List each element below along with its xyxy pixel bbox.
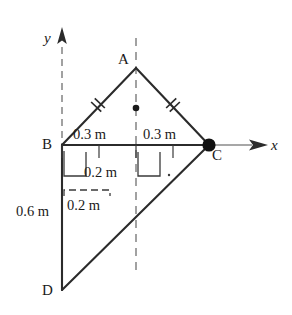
y-axis-label: y — [44, 31, 51, 46]
x-axis-label: x — [271, 138, 278, 153]
dim-bracket-0p2-upper-right — [138, 152, 160, 176]
dimension-label-0p2-lower: 0.2 m — [67, 198, 100, 213]
dimension-label-0p3-left: 0.3 m — [73, 127, 106, 142]
equal-tick-BA-icon — [91, 98, 105, 111]
geometry-figure: A B C D y x 0.3 m 0.3 m 0.2 m 0.2 m 0.6 … — [0, 0, 292, 315]
vertex-label-D: D — [42, 283, 53, 298]
dimension-label-0p2-upper: 0.2 m — [84, 165, 117, 180]
centroid-marker-dot — [133, 105, 140, 112]
dim-bracket-0p2-upper-left — [64, 151, 86, 176]
figure-canvas — [0, 0, 292, 315]
dim-reference-dot — [168, 174, 170, 176]
equal-tick-AC-icon — [166, 98, 180, 111]
dim-bracket-0p2-lower — [64, 190, 110, 196]
vertex-label-C: C — [212, 148, 222, 163]
vertex-label-B: B — [42, 137, 52, 152]
dimension-label-0p3-right: 0.3 m — [143, 127, 176, 142]
vertex-label-A: A — [118, 52, 129, 67]
dimension-label-0p6: 0.6 m — [16, 204, 49, 219]
y-axis-arrowhead — [57, 27, 67, 44]
